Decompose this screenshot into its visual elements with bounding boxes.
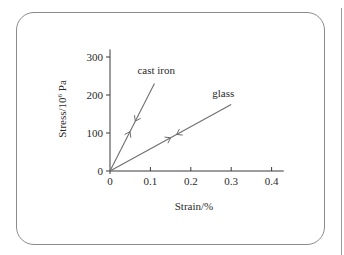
x-tick-label: 0.2: [184, 175, 198, 187]
series-label-cast-iron: cast iron: [137, 64, 175, 76]
series-label-glass: glass: [212, 87, 234, 99]
y-tick-label: 100: [87, 127, 104, 139]
x-tick-label: 0.4: [265, 175, 279, 187]
x-tick-label: 0.1: [144, 175, 158, 187]
axes: [110, 49, 284, 174]
y-tick-label: 200: [87, 89, 104, 101]
series-group: cast ironglass: [110, 64, 234, 171]
ticks: 00.10.20.30.40100200300: [87, 51, 279, 187]
stress-strain-chart: 00.10.20.30.40100200300 cast ironglass S…: [0, 0, 344, 255]
y-tick-label: 300: [87, 51, 104, 63]
x-tick-label: 0.3: [224, 175, 238, 187]
x-tick-label: 0: [107, 175, 113, 187]
series-line-cast-iron: [110, 84, 154, 171]
y-tick-label: 0: [98, 165, 104, 177]
x-axis-title: Strain/%: [175, 200, 214, 212]
y-axis-title: Stress/106 Pa: [56, 80, 68, 138]
